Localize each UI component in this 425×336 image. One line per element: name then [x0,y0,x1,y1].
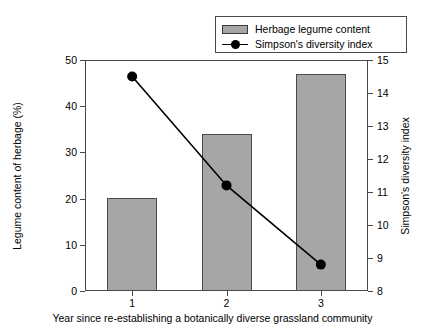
right-axis-tick-label: 8 [377,285,383,297]
legend-label: Simpson's diversity index [255,38,373,50]
tick-mark [368,126,373,127]
plot-area: 01020304050 89101112131415 123 [85,60,368,291]
left-axis-tick-label: 30 [65,146,77,158]
x-axis-tick-label: 1 [129,297,135,309]
right-axis-tick-label: 10 [377,219,389,231]
tick-mark [368,258,373,259]
tick-mark [132,291,133,296]
tick-mark [227,291,228,296]
chart-figure: Herbage legume content Simpson's diversi… [0,0,425,336]
tick-mark [368,60,373,61]
tick-mark [368,159,373,160]
tick-mark [80,245,85,246]
x-axis-tick-label: 2 [224,297,230,309]
right-axis-tick-label: 14 [377,87,389,99]
tick-mark [368,192,373,193]
right-axis-tick-label: 15 [377,54,389,66]
tick-mark [80,60,85,61]
tick-mark [368,93,373,94]
right-axis-tick-label: 12 [377,153,389,165]
chart-legend: Herbage legume content Simpson's diversi… [215,16,407,53]
tick-mark [80,199,85,200]
left-axis-title: Legume content of herbage (%) [10,60,24,291]
tick-mark [80,152,85,153]
bar-swatch-icon [222,25,248,34]
line-marker-icon [222,40,248,49]
legend-label: Herbage legume content [255,23,370,35]
right-axis-title: Simpson's diversity index [398,60,412,291]
tick-mark [321,291,322,296]
left-axis-tick-label: 40 [65,100,77,112]
left-axis-tick-label: 10 [65,239,77,251]
tick-mark [80,291,85,292]
tick-mark [80,106,85,107]
diversity-index-markers [127,72,326,270]
right-axis-tick-label: 11 [377,186,388,198]
left-axis-tick-label: 20 [65,193,77,205]
x-axis-title: Year since re-establishing a botanically… [0,312,425,324]
legend-item-simpsons-diversity-index: Simpson's diversity index [222,37,400,51]
tick-mark [368,291,373,292]
legend-item-herbage-legume-content: Herbage legume content [222,22,400,36]
data-point-marker [127,72,137,82]
left-axis-tick-label: 0 [71,285,77,297]
line-series [85,60,368,291]
left-axis-tick-label: 50 [65,54,77,66]
data-point-marker [222,180,232,190]
right-axis-tick-label: 13 [377,120,389,132]
tick-mark [368,225,373,226]
data-point-marker [316,260,326,270]
right-axis-title-text: Simpson's diversity index [399,117,411,235]
x-axis-tick-label: 3 [318,297,324,309]
left-axis-title-text: Legume content of herbage (%) [11,102,23,250]
diversity-index-line [132,77,321,265]
right-axis-tick-label: 9 [377,252,383,264]
